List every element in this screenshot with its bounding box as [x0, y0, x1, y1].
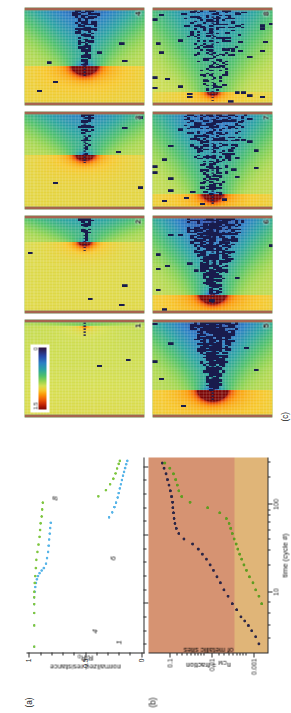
panel-c-letter: (c)	[281, 411, 288, 421]
panel-b-metallic-fraction-plot: 0.1 0.01 0.001 10 100	[149, 457, 269, 653]
frame-number-8: 8	[262, 11, 271, 15]
panel-a-letter: (a)	[25, 697, 34, 707]
frame-6: 6	[153, 215, 273, 313]
panel-a-resistance-plot: 1 0.5 0	[27, 457, 145, 653]
panel-a-tag-4: 4	[91, 629, 100, 633]
colorbar-gradient	[39, 347, 47, 409]
panel-b-xlabel: time (cycle #)	[281, 533, 288, 577]
frame-number-7: 7	[262, 115, 271, 119]
frame-8: 8	[153, 7, 273, 105]
frame-number-3: 3	[134, 115, 143, 119]
frame-7: 7	[153, 111, 273, 209]
panel-b-ylabel-n: n	[227, 660, 231, 669]
figure-canvas: (a) 1 0.5 0	[17, 0, 288, 713]
panel-a-ylabel-line2: R/R	[81, 654, 94, 663]
panel-a-data-canvas	[27, 457, 144, 652]
panel-a-ylabel-sub: 0	[78, 653, 81, 659]
frame-number-4: 4	[134, 11, 143, 15]
colorbar: 1.5 0	[31, 344, 50, 412]
panel-a-ytick-0: 0	[138, 658, 145, 662]
panel-b-xtick-10: 10	[273, 588, 280, 595]
panel-a-ylabel: normalized resistance R/R0	[42, 652, 130, 671]
panel-a-axes: 1 0.5 0	[27, 457, 145, 653]
panel-b-data-canvas	[149, 457, 268, 652]
panel-a-tag-8: 8	[51, 496, 60, 500]
frame-number-1: 1	[134, 323, 143, 327]
panel-a-ylabel-line1: normalized resistance	[50, 662, 121, 671]
panel-c-simulation-frames: 1.5 0 1 2 3 4	[25, 7, 277, 417]
panel-b-ylabel-sub: CM	[218, 660, 227, 666]
frame-1: 1.5 0 1	[25, 319, 145, 417]
frame-number-2: 2	[134, 219, 143, 223]
panel-b-letter: (b)	[149, 697, 158, 707]
frame-5: 5	[153, 319, 273, 417]
panel-b-axes: 0.1 0.01 0.001 10 100	[149, 457, 269, 653]
frame-number-5: 5	[262, 323, 271, 327]
frame-3: 3	[25, 111, 145, 209]
panel-b-xtick-100: 100	[273, 498, 280, 509]
frame-4: 4	[25, 7, 145, 105]
panel-b-ylabel-line2: of metallic sites	[184, 646, 234, 655]
panel-a-tag-1: 1	[115, 640, 124, 644]
panel-b-ylabel: nCM = fraction of metallic sites	[159, 646, 259, 673]
panel-a-tag-6: 6	[109, 556, 118, 560]
frame-2: 2	[25, 215, 145, 313]
panel-b-ylabel-rest: = fraction	[186, 660, 218, 669]
panel-a-ytick-1: 1	[25, 658, 32, 662]
frame-number-6: 6	[262, 219, 271, 223]
